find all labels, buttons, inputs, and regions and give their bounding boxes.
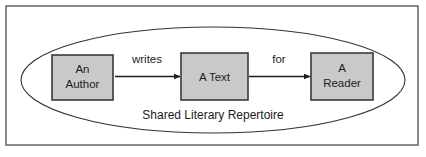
ellipse-caption: Shared Literary Repertoire: [142, 108, 284, 122]
communication-model-diagram: An Author A Text A Reader writes for Sha…: [0, 0, 426, 157]
node-text-label: A Text: [199, 71, 231, 83]
edge-label-writes: writes: [131, 53, 162, 65]
node-author-label-line2: Author: [66, 78, 100, 90]
figure-root: An Author A Text A Reader writes for Sha…: [0, 0, 426, 157]
node-reader-label-line1: A: [338, 62, 346, 74]
node-reader-label-line2: Reader: [323, 77, 361, 89]
edge-label-for: for: [272, 53, 286, 65]
node-author-label-line1: An: [75, 63, 89, 75]
